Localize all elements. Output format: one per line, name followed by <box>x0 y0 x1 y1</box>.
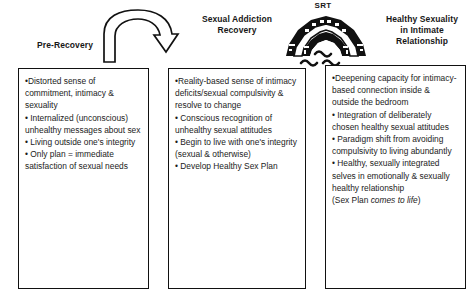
sex-plan-note-italic: comes to life <box>371 195 418 205</box>
header-sexual-addiction-recovery: Sexual Addiction Recovery <box>178 14 296 36</box>
pre-recovery-bullet-list: Distorted sense of commitment, intimacy … <box>25 75 141 173</box>
list-item: Only plan = immediate satisfaction of se… <box>25 148 141 172</box>
bridge-icon <box>285 10 367 68</box>
sex-plan-note: (Sex Plan comes to life) <box>332 194 458 206</box>
list-item: Deepening capacity for intimacy-based co… <box>332 72 458 109</box>
list-item: Begin to live with one's integrity (sexu… <box>175 136 298 160</box>
sexual-addiction-recovery-bullet-list: Reality-based sense of intimacy deficits… <box>175 75 298 173</box>
header-healthy-sexuality: Healthy Sexuality in Intimate Relationsh… <box>372 14 472 47</box>
healthy-sexuality-bullet-list: Deepening capacity for intimacy-based co… <box>332 72 458 194</box>
list-item: Distorted sense of commitment, intimacy … <box>25 75 141 112</box>
srt-label: SRT <box>300 1 346 10</box>
panel-pre-recovery: Distorted sense of commitment, intimacy … <box>18 68 149 289</box>
list-item: Conscious recognition of unhealthy sexua… <box>175 112 298 136</box>
list-item: Internalized (unconscious) unhealthy mes… <box>25 112 141 136</box>
sex-plan-note-suffix: ) <box>418 195 421 205</box>
header-sar-line1: Sexual Addiction <box>178 14 296 25</box>
sex-plan-note-prefix: (Sex Plan <box>332 195 371 205</box>
diagram-canvas: Pre-Recovery Sexual Addiction Recovery H… <box>0 0 474 298</box>
header-healthy-line2: in Intimate <box>372 25 472 36</box>
panel-sexual-addiction-recovery: Reality-based sense of intimacy deficits… <box>168 68 306 289</box>
list-item: Integration of deliberately chosen healt… <box>332 109 458 133</box>
list-item: Develop Healthy Sex Plan <box>175 160 298 172</box>
header-healthy-line1: Healthy Sexuality <box>372 14 472 25</box>
list-item: Paradigm shift from avoiding compulsivit… <box>332 133 458 157</box>
list-item: Living outside one's integrity <box>25 136 141 148</box>
header-sar-line2: Recovery <box>178 25 296 36</box>
panel-healthy-sexuality: Deepening capacity for intimacy-based co… <box>325 65 466 289</box>
list-item: Healthy, sexually integrated selves in e… <box>332 157 458 194</box>
list-item: Reality-based sense of intimacy deficits… <box>175 75 298 112</box>
header-healthy-line3: Relationship <box>372 36 472 47</box>
curved-arrow-icon <box>98 8 182 64</box>
